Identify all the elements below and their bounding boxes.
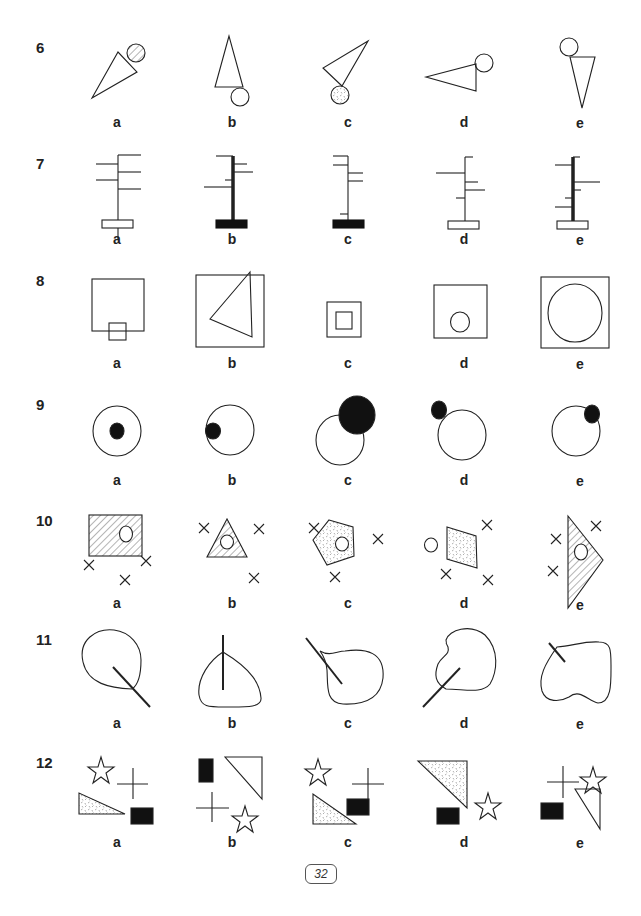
q7-option-e-figure[interactable]	[555, 157, 600, 229]
q11-option-d-figure[interactable]	[423, 629, 496, 707]
q6-option-d-figure[interactable]	[426, 54, 493, 91]
q8-option-b-figure[interactable]	[196, 272, 264, 347]
q10-option-a-label[interactable]: a	[107, 595, 127, 611]
q11-option-c-label[interactable]: c	[338, 715, 358, 731]
q10-option-e-figure[interactable]	[548, 516, 603, 608]
q8-option-b-label[interactable]: b	[222, 355, 242, 371]
q6-option-b-label[interactable]: b	[222, 114, 242, 130]
q9-option-c-figure[interactable]	[316, 396, 375, 465]
q7-option-a-label[interactable]: a	[107, 231, 127, 247]
q7-option-c-label[interactable]: c	[338, 231, 358, 247]
q9-option-b-label[interactable]: b	[222, 472, 242, 488]
q9-option-d-label[interactable]: d	[454, 472, 474, 488]
q7-option-d-label[interactable]: d	[454, 231, 474, 247]
q6-option-e-figure[interactable]	[560, 38, 595, 108]
q12-option-b-label[interactable]: b	[222, 834, 242, 850]
q6-option-c-label[interactable]: c	[338, 114, 358, 130]
q12-option-e-figure[interactable]	[541, 766, 606, 829]
q11-option-c-figure[interactable]	[306, 638, 383, 704]
q11-option-a-label[interactable]: a	[107, 715, 127, 731]
page-number: 32	[305, 864, 337, 884]
q11-option-b-figure[interactable]	[199, 635, 261, 707]
q10-option-b-figure[interactable]	[199, 519, 264, 583]
q6-option-a-label[interactable]: a	[107, 114, 127, 130]
q10-option-d-figure[interactable]	[425, 520, 494, 585]
q10-option-b-label[interactable]: b	[222, 595, 242, 611]
q7-option-b-figure[interactable]	[204, 156, 253, 228]
q11-option-a-figure[interactable]	[82, 630, 150, 707]
q9-option-e-label[interactable]: e	[570, 473, 590, 489]
q10-option-d-label[interactable]: d	[454, 595, 474, 611]
q12-option-e-label[interactable]: e	[570, 835, 590, 851]
puzzle-page: 6 7 8 9 10 11 12 a b c d e a b c d e a b…	[0, 0, 641, 916]
q10-option-c-figure[interactable]	[309, 520, 383, 582]
q12-option-d-label[interactable]: d	[454, 834, 474, 850]
q12-option-a-label[interactable]: a	[107, 834, 127, 850]
q10-option-c-label[interactable]: c	[338, 595, 358, 611]
q6-option-b-figure[interactable]	[215, 36, 249, 106]
q6-option-e-label[interactable]: e	[570, 115, 590, 131]
q10-option-a-figure[interactable]	[84, 515, 151, 585]
q7-option-e-label[interactable]: e	[570, 232, 590, 248]
q8-option-e-label[interactable]: e	[570, 356, 590, 372]
question-number-12: 12	[36, 754, 53, 771]
question-number-8: 8	[36, 272, 44, 289]
q9-option-c-label[interactable]: c	[338, 472, 358, 488]
q8-option-a-label[interactable]: a	[107, 355, 127, 371]
q9-option-a-figure[interactable]	[93, 406, 141, 456]
q12-option-b-figure[interactable]	[196, 757, 262, 832]
question-number-11: 11	[36, 631, 52, 648]
q8-option-d-label[interactable]: d	[454, 355, 474, 371]
q7-option-d-figure[interactable]	[436, 157, 485, 229]
q11-option-d-label[interactable]: d	[454, 715, 474, 731]
q12-option-a-figure[interactable]	[79, 757, 153, 824]
q12-option-c-figure[interactable]	[305, 759, 384, 824]
q7-option-b-label[interactable]: b	[222, 231, 242, 247]
q11-option-e-figure[interactable]	[541, 642, 611, 703]
q8-option-c-figure[interactable]	[327, 302, 361, 337]
q11-option-e-label[interactable]: e	[570, 716, 590, 732]
q9-option-d-figure[interactable]	[432, 401, 487, 460]
question-number-6: 6	[36, 39, 44, 56]
figures-canvas	[0, 0, 641, 916]
q7-option-c-figure[interactable]	[333, 156, 364, 228]
q8-option-e-figure[interactable]	[541, 277, 609, 348]
question-number-10: 10	[36, 512, 53, 529]
q9-option-e-figure[interactable]	[552, 405, 600, 456]
q8-option-d-figure[interactable]	[434, 285, 487, 338]
q6-option-c-figure[interactable]	[323, 41, 368, 104]
q8-option-c-label[interactable]: c	[338, 355, 358, 371]
question-number-7: 7	[36, 155, 44, 172]
q8-option-a-figure[interactable]	[92, 279, 144, 340]
q9-option-a-label[interactable]: a	[107, 472, 127, 488]
q9-option-b-figure[interactable]	[206, 405, 255, 455]
q7-option-a-figure[interactable]	[96, 155, 141, 240]
q6-option-d-label[interactable]: d	[454, 114, 474, 130]
q12-option-d-figure[interactable]	[418, 761, 501, 824]
q6-option-a-figure[interactable]	[92, 44, 145, 98]
q12-option-c-label[interactable]: c	[338, 834, 358, 850]
q10-option-e-label[interactable]: e	[570, 597, 590, 613]
question-number-9: 9	[36, 396, 44, 413]
q11-option-b-label[interactable]: b	[222, 715, 242, 731]
